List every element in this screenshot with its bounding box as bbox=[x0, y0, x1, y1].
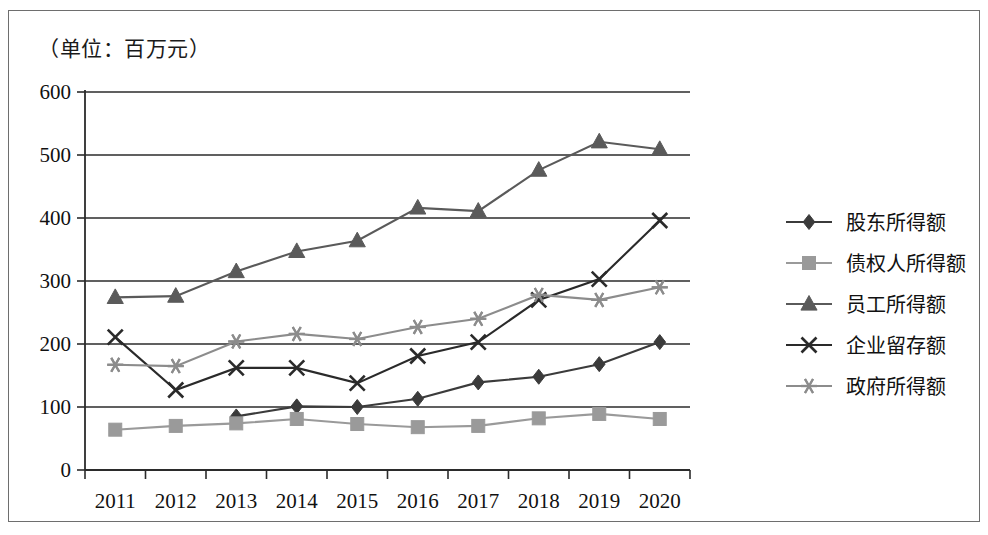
x-tick-label: 2019 bbox=[578, 489, 620, 513]
y-tick-label: 600 bbox=[40, 80, 72, 104]
series-3-triangle-marker bbox=[591, 133, 607, 148]
x-tick-label: 2016 bbox=[397, 489, 439, 513]
legend-item-1[interactable]: 股东所得额 bbox=[786, 212, 946, 234]
series-2-square-marker bbox=[411, 421, 424, 434]
series-1-diamond-marker bbox=[351, 400, 363, 415]
series-line bbox=[115, 414, 660, 430]
y-axis-labels: 0100200300400500600 bbox=[40, 80, 72, 482]
series-4-x-marker bbox=[471, 335, 486, 350]
series-1-diamond-marker bbox=[472, 375, 484, 390]
y-tick-label: 100 bbox=[40, 395, 72, 419]
series-5-asterisk-marker bbox=[470, 312, 486, 326]
series-5-asterisk-marker bbox=[168, 359, 184, 373]
series-3-triangle-marker bbox=[107, 289, 123, 304]
series-line bbox=[115, 287, 660, 366]
legend-2-square-marker bbox=[803, 257, 816, 270]
x-tick-label: 2014 bbox=[276, 489, 319, 513]
x-tick-label: 2012 bbox=[155, 489, 197, 513]
legend-item-2[interactable]: 债权人所得额 bbox=[786, 253, 966, 275]
series-2-square-marker bbox=[472, 419, 485, 432]
y-tick-label: 500 bbox=[40, 143, 72, 167]
line-chart: 0100200300400500600 20112012201320142015… bbox=[0, 0, 988, 535]
series-2-square-marker bbox=[169, 419, 182, 432]
series-5-asterisk-marker bbox=[107, 358, 123, 372]
series-4-x-marker bbox=[108, 330, 123, 345]
series-1-diamond-marker bbox=[412, 391, 424, 406]
legend-label-1: 股东所得额 bbox=[846, 212, 946, 234]
x-tick-label: 2017 bbox=[457, 489, 499, 513]
series-3-triangle-marker bbox=[410, 199, 426, 214]
legend-1-diamond-marker bbox=[803, 215, 815, 230]
series-line bbox=[115, 221, 660, 391]
x-axis-labels: 2011201220132014201520162017201820192020 bbox=[95, 489, 681, 513]
x-tick-label: 2015 bbox=[336, 489, 378, 513]
series-5 bbox=[107, 280, 668, 373]
series-2-square-marker bbox=[109, 423, 122, 436]
legend-3-triangle-marker bbox=[801, 296, 817, 311]
series-1-diamond-marker bbox=[533, 369, 545, 384]
legend-label-5: 政府所得额 bbox=[846, 376, 946, 398]
legend-label-2: 债权人所得额 bbox=[846, 253, 966, 275]
y-tick-label: 200 bbox=[40, 332, 72, 356]
series-3-triangle-marker bbox=[531, 162, 547, 177]
legend-item-4[interactable]: 企业留存额 bbox=[786, 335, 946, 357]
legend-item-3[interactable]: 员工所得额 bbox=[786, 294, 946, 316]
chart-container: 0100200300400500600 20112012201320142015… bbox=[0, 0, 988, 535]
series-5-asterisk-marker bbox=[652, 280, 668, 294]
x-tick-label: 2018 bbox=[518, 489, 560, 513]
series-2-square-marker bbox=[653, 412, 666, 425]
series-4 bbox=[108, 213, 668, 397]
data-series-layer bbox=[107, 133, 668, 436]
legend: 股东所得额债权人所得额员工所得额企业留存额政府所得额 bbox=[786, 212, 966, 398]
series-line bbox=[115, 142, 660, 298]
series-1-diamond-marker bbox=[654, 335, 666, 350]
series-2-square-marker bbox=[351, 418, 364, 431]
y-tick-label: 300 bbox=[40, 269, 72, 293]
x-tick-label: 2020 bbox=[639, 489, 681, 513]
series-2 bbox=[109, 407, 667, 436]
series-4-x-marker bbox=[410, 348, 425, 363]
series-1-diamond-marker bbox=[291, 399, 303, 414]
legend-5-asterisk-marker bbox=[801, 379, 817, 393]
series-2-square-marker bbox=[532, 412, 545, 425]
legend-label-4: 企业留存额 bbox=[846, 335, 946, 357]
series-5-asterisk-marker bbox=[289, 327, 305, 341]
y-tick-label: 0 bbox=[61, 458, 72, 482]
x-tick-label: 2013 bbox=[215, 489, 257, 513]
series-4-x-marker bbox=[350, 376, 365, 391]
series-2-square-marker bbox=[593, 407, 606, 420]
series-5-asterisk-marker bbox=[228, 335, 244, 349]
series-5-asterisk-marker bbox=[591, 293, 607, 307]
x-tick-label: 2011 bbox=[95, 489, 136, 513]
legend-item-5[interactable]: 政府所得额 bbox=[786, 376, 946, 398]
legend-label-3: 员工所得额 bbox=[846, 294, 946, 316]
series-4-x-marker bbox=[168, 382, 183, 397]
series-3-triangle-marker bbox=[349, 232, 365, 247]
series-4-x-marker bbox=[592, 272, 607, 287]
series-4-x-marker bbox=[652, 213, 667, 228]
y-tick-label: 400 bbox=[40, 206, 72, 230]
series-2-square-marker bbox=[230, 417, 243, 430]
series-1-diamond-marker bbox=[593, 357, 605, 372]
series-5-asterisk-marker bbox=[410, 320, 426, 334]
series-2-square-marker bbox=[290, 412, 303, 425]
